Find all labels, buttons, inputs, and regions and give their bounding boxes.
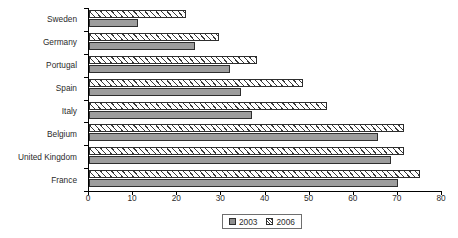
y-axis-tick: [84, 8, 88, 9]
bar-2006: [89, 10, 186, 18]
y-axis-tick: [84, 31, 88, 32]
category-label: Belgium: [47, 128, 77, 140]
value-axis-labels: 01020304050607080: [88, 193, 448, 207]
legend-item-2006: 2006: [266, 217, 294, 227]
bar-2003: [89, 179, 398, 187]
category-label: Spain: [56, 82, 77, 94]
plot-area: [88, 8, 441, 191]
y-axis-tick: [84, 100, 88, 101]
bar-2006: [89, 147, 404, 155]
bar-group: [89, 100, 442, 123]
category-label: Sweden: [47, 13, 77, 25]
category-axis-labels: SwedenGermanyPortugalSpainItalyBelgiumUn…: [0, 8, 82, 191]
bar-2003: [89, 133, 378, 141]
legend-label-2003: 2003: [239, 217, 257, 227]
bar-2003: [89, 65, 230, 73]
y-axis-tick: [84, 77, 88, 78]
bar-group: [89, 31, 442, 54]
x-axis-tick-label: 80: [436, 193, 445, 204]
x-axis-tick-label: 20: [172, 193, 181, 204]
bar-2006: [89, 56, 257, 64]
x-axis-tick-label: 60: [348, 193, 357, 204]
bar-2006: [89, 79, 303, 87]
y-axis-tick: [84, 122, 88, 123]
legend-swatch-2006-icon: [266, 218, 273, 225]
bar-2006: [89, 33, 219, 41]
legend-item-2003: 2003: [229, 217, 257, 227]
bar-2006: [89, 124, 404, 132]
bar-group: [89, 8, 442, 31]
x-axis-tick-label: 50: [304, 193, 313, 204]
legend-label-2006: 2006: [276, 217, 294, 227]
bar-2003: [89, 156, 391, 164]
bar-2003: [89, 111, 252, 119]
bar-group: [89, 54, 442, 77]
chart-legend: 2003 2006: [222, 214, 302, 229]
category-label: Italy: [62, 105, 77, 117]
x-axis-tick-label: 30: [216, 193, 225, 204]
y-axis-tick: [84, 145, 88, 146]
y-axis-tick: [84, 54, 88, 55]
category-label: Portugal: [46, 59, 77, 71]
bar-2003: [89, 19, 138, 27]
legend-swatch-2003-icon: [229, 218, 236, 225]
bar-2006: [89, 102, 327, 110]
bar-chart: SwedenGermanyPortugalSpainItalyBelgiumUn…: [0, 0, 458, 238]
x-axis-tick-label: 70: [392, 193, 401, 204]
category-label: France: [51, 174, 77, 186]
bar-2006: [89, 170, 420, 178]
bar-group: [89, 145, 442, 168]
x-axis-tick-label: 10: [128, 193, 137, 204]
bar-2003: [89, 88, 241, 96]
y-axis-tick: [84, 168, 88, 169]
bar-group: [89, 122, 442, 145]
category-label: United Kingdom: [18, 151, 77, 163]
x-axis-tick-label: 0: [86, 193, 91, 204]
x-axis-tick-label: 40: [260, 193, 269, 204]
bar-group: [89, 77, 442, 100]
bar-group: [89, 168, 442, 191]
category-label: Germany: [43, 36, 77, 48]
bar-2003: [89, 42, 195, 50]
